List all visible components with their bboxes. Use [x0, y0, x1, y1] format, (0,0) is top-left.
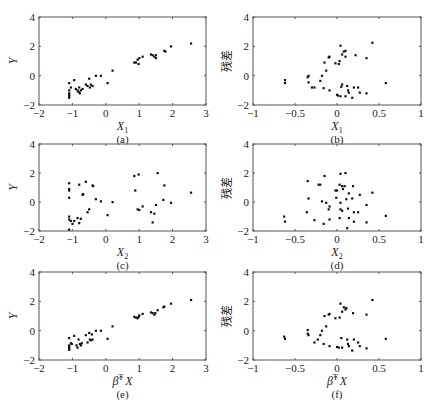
data-point — [81, 342, 83, 344]
panel-c-y-vs-x2: −2−10123−2024X2(c)Y — [6, 138, 209, 272]
data-point — [95, 75, 97, 77]
x-tick-label: 2 — [170, 362, 176, 374]
data-point — [95, 330, 97, 332]
y-tick-label: 4 — [30, 266, 36, 278]
x-tick-label: 0.5 — [372, 233, 386, 245]
data-point — [88, 332, 90, 334]
data-point — [339, 217, 341, 219]
data-point — [106, 214, 108, 216]
data-point — [163, 305, 165, 307]
data-point — [284, 79, 286, 81]
panel-caption: (d) — [331, 259, 344, 272]
data-point — [284, 82, 286, 84]
data-point — [307, 180, 309, 182]
y-tick-label: −2 — [237, 354, 249, 366]
x-tick-label: 3 — [203, 107, 209, 119]
data-point — [138, 173, 140, 175]
data-point — [354, 54, 356, 56]
data-point — [313, 219, 315, 221]
data-point — [359, 194, 361, 196]
y-tick-label: −2 — [23, 225, 35, 237]
x-tick-label: 0.5 — [372, 362, 386, 374]
data-point — [133, 175, 135, 177]
y-axis-label: Y — [6, 56, 20, 64]
data-point — [155, 54, 157, 56]
axes-box — [39, 17, 206, 105]
data-point — [68, 229, 70, 231]
data-point — [284, 338, 286, 340]
y-tick-label: 0 — [30, 196, 36, 208]
data-point — [342, 188, 344, 190]
data-point — [100, 200, 102, 202]
data-point — [344, 56, 346, 58]
data-point — [344, 95, 346, 97]
x-tick-label: −1 — [67, 362, 79, 374]
data-point — [323, 61, 325, 63]
data-point — [79, 92, 81, 94]
data-point — [325, 70, 327, 72]
data-point — [340, 337, 342, 339]
x-tick-label: 0 — [103, 107, 109, 119]
data-point — [359, 92, 361, 94]
data-point — [346, 85, 348, 87]
data-point — [343, 306, 345, 308]
data-point — [345, 198, 347, 200]
data-point — [323, 223, 325, 225]
data-point — [323, 343, 325, 345]
data-point — [365, 347, 367, 349]
data-point — [190, 299, 192, 301]
data-point — [325, 202, 327, 204]
data-point — [385, 215, 387, 217]
data-point — [170, 303, 172, 305]
x-tick-label: 1 — [136, 362, 142, 374]
data-point — [284, 221, 286, 223]
data-point — [351, 349, 353, 351]
data-point — [73, 79, 75, 81]
data-point — [385, 82, 387, 84]
data-point — [336, 189, 338, 191]
data-point — [68, 182, 70, 184]
data-point — [357, 86, 359, 88]
data-point — [338, 347, 340, 349]
data-point — [344, 172, 346, 174]
data-point — [307, 329, 309, 331]
y-tick-label: 2 — [244, 295, 250, 307]
data-point — [91, 333, 93, 335]
panel-a-y-vs-x1: −2−10123−2024X1(a)Y — [6, 11, 209, 146]
axes-box — [39, 272, 206, 360]
data-point — [153, 213, 155, 215]
data-point — [348, 345, 350, 347]
data-point — [371, 192, 373, 194]
data-point — [100, 330, 102, 332]
data-point — [82, 193, 84, 195]
data-point — [86, 211, 88, 213]
data-point — [365, 204, 367, 206]
data-point — [341, 210, 343, 212]
data-point — [138, 63, 140, 65]
data-point — [328, 345, 330, 347]
data-point — [353, 221, 355, 223]
y-tick-label: 4 — [244, 266, 250, 278]
data-point — [339, 316, 341, 318]
data-point — [85, 181, 87, 183]
y-tick-label: 2 — [30, 167, 36, 179]
panel-caption: (e) — [116, 388, 129, 401]
y-tick-label: 2 — [30, 295, 36, 307]
y-tick-label: 0 — [30, 70, 36, 82]
data-point — [157, 309, 159, 311]
data-point — [111, 70, 113, 72]
data-point — [328, 218, 330, 220]
data-point — [86, 341, 88, 343]
data-point — [344, 185, 346, 187]
panel-caption: (c) — [116, 259, 129, 272]
data-point — [142, 56, 144, 58]
data-point — [190, 192, 192, 194]
data-point — [155, 57, 157, 59]
data-point — [341, 53, 343, 55]
data-point — [307, 81, 309, 83]
data-point — [334, 317, 336, 319]
data-point — [340, 86, 342, 88]
y-axis-label: 残差 — [220, 50, 233, 72]
data-point — [385, 338, 387, 340]
data-point — [328, 89, 330, 91]
